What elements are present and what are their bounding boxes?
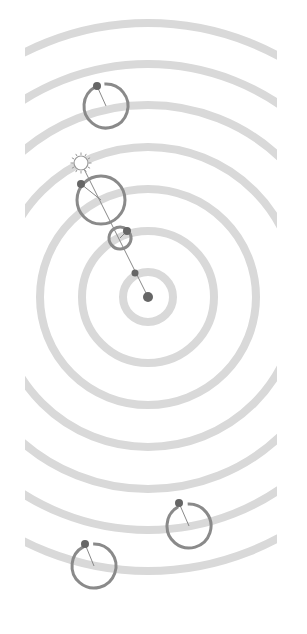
concentric-rings <box>0 23 307 571</box>
ring-5 <box>0 105 307 489</box>
central-body-dot <box>143 292 153 302</box>
orbiter-upper <box>77 176 125 224</box>
inner-marker-dot <box>132 270 139 277</box>
moon-dot <box>175 499 183 507</box>
diagram-canvas <box>0 0 307 634</box>
moon-dot <box>93 82 101 90</box>
orbital-diagram <box>0 0 307 634</box>
moon-dot <box>81 540 89 548</box>
moon-dot <box>77 180 85 188</box>
moon-dot <box>123 227 131 235</box>
